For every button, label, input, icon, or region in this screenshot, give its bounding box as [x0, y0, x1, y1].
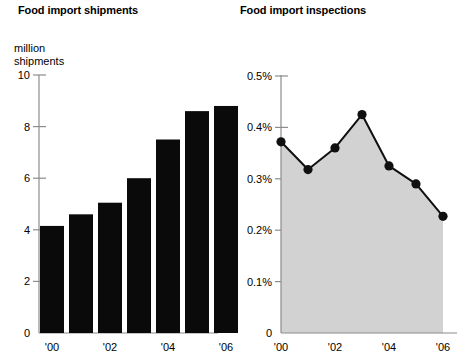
- y-tick-label: 0.1%: [247, 276, 272, 288]
- x-tick-label: '02: [328, 341, 342, 353]
- y-tick-label: 10: [18, 69, 30, 81]
- data-point-01: [303, 165, 312, 174]
- area-chart-inspections: 00.1%0.2%0.3%0.4%0.5% '00'02'04'06: [232, 0, 465, 361]
- x-tick-label: '04: [382, 341, 396, 353]
- y-tick-label: 8: [24, 121, 30, 133]
- bar-04: [156, 140, 180, 334]
- y-tick-label: 0.4%: [247, 121, 272, 133]
- x-tick-label: '06: [436, 341, 450, 353]
- data-point-06: [438, 212, 447, 221]
- x-tick-label: '00: [45, 341, 59, 353]
- bar-series-shipments: [40, 106, 238, 333]
- x-tick-label: '00: [274, 341, 288, 353]
- data-point-03: [357, 110, 366, 119]
- y-tick-label: 0.2%: [247, 224, 272, 236]
- bar-05: [185, 111, 209, 333]
- data-point-00: [276, 137, 285, 146]
- x-axis-ticks-inspections: '00'02'04'06: [274, 341, 450, 353]
- y-tick-label: 6: [24, 172, 30, 184]
- data-point-05: [411, 179, 420, 188]
- chart-panel-inspections: Food import inspections 00.1%0.2%0.3%0.4…: [232, 0, 465, 361]
- data-point-04: [384, 161, 393, 170]
- y-tick-label: 0.3%: [247, 173, 272, 185]
- bar-01: [69, 214, 93, 333]
- data-point-02: [330, 143, 339, 152]
- y-tick-label: 0: [24, 327, 30, 339]
- bar-03: [127, 178, 151, 333]
- x-tick-label: '02: [103, 341, 117, 353]
- y-tick-label: 2: [24, 275, 30, 287]
- y-tick-label: 4: [24, 224, 30, 236]
- bar-00: [40, 226, 64, 333]
- y-tick-label: 0.5%: [247, 70, 272, 82]
- chart-panel-shipments: Food import shipments million shipments …: [0, 0, 232, 361]
- area-fill-inspections: [281, 115, 443, 333]
- x-tick-label: '04: [161, 341, 175, 353]
- y-tick-label: 0: [266, 327, 272, 339]
- x-axis-ticks-shipments: '00'02'04'06: [45, 341, 233, 353]
- bar-chart-shipments: 0246810 '00'02'04'06: [0, 0, 232, 361]
- bar-02: [98, 203, 122, 333]
